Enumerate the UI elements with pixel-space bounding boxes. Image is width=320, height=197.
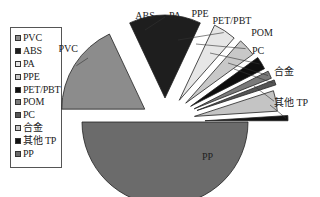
pie-chart: PVC ABS PA PPE PET/PBT POM PC 合金 其他 TP P…: [0, 0, 320, 197]
slice-label-pvc: PVC: [59, 43, 79, 54]
pie-slices: [62, 15, 288, 197]
slice-label-pa: PA: [169, 10, 182, 21]
slice-label-pom: POM: [251, 27, 273, 38]
pie-slice-pp: [82, 122, 248, 197]
slice-label-pet-pbt: PET/PBT: [213, 15, 252, 26]
slice-label-pp: PP: [202, 151, 214, 162]
slice-label-other-tp: 其他 TP: [274, 96, 309, 108]
pie-plot-area: PVCABSPAPPEPET/PBTPOMPC合金其他 TPPP: [0, 0, 320, 197]
slice-label-alloy: 合金: [274, 65, 294, 77]
slice-label-pc: PC: [252, 45, 265, 56]
slice-label-ppe: PPE: [191, 8, 208, 19]
slice-label-abs: ABS: [135, 10, 154, 21]
pie-slice-other-tp: [205, 116, 288, 121]
